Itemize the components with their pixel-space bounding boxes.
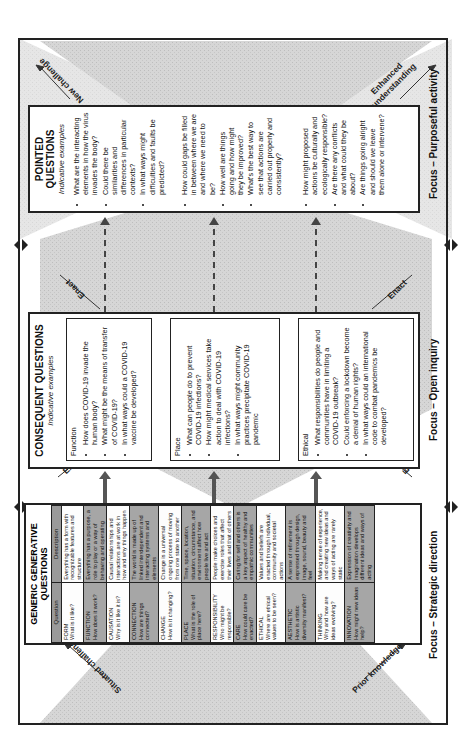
consequent-group-place: Place What can people do to prevent COVI…	[170, 318, 280, 461]
list-item: In what ways could an international code…	[361, 323, 389, 445]
list-item: Could enforcing a lockdown become a deni…	[342, 323, 360, 445]
table-row: INNOVATIONHow might new ideas help?Expre…	[345, 506, 374, 643]
table-row: THINKINGWhy and how are ideas evolving?M…	[315, 506, 344, 643]
generic-questions-panel: GENERIC GENERATIVE QUESTIONS Question De…	[24, 503, 422, 645]
focus-strategic-caption: Focus – Strategic direction	[428, 531, 439, 659]
table-row: CAREHow could care be enacted?Caring for…	[234, 506, 257, 643]
table-row: ETHICALWhere are ethical values to be se…	[257, 506, 286, 643]
table-row: CHANGEHow is it changing?Change is a uni…	[159, 506, 182, 643]
consequent-questions-subtitle: Indicative examples	[46, 314, 55, 467]
pointed-group-1: What are the interacting elements in how…	[72, 112, 166, 206]
table-row: AESTHETICHow is artistic diversity manif…	[286, 506, 315, 643]
consequent-questions-panel: CONSEQUENT QUESTIONS Indicative examples…	[28, 312, 420, 469]
pointed-group-2: How could gaps be filled in between wher…	[180, 112, 283, 206]
focus-open-caption: Focus – Open inquiry	[428, 339, 439, 441]
list-item: What are the interacting elements in how…	[72, 112, 100, 195]
list-item: How well are things going and how might …	[218, 112, 246, 195]
consequent-group-ethical: Ethical What responsibilities do people …	[298, 318, 414, 461]
table-row: FORMWhat is it like?Everything has a for…	[61, 506, 84, 643]
list-item: What might be the means of transfer of C…	[100, 323, 118, 445]
list-item: In what ways could a COVID-19 vaccine be…	[120, 323, 138, 445]
focus-purposeful-caption: Focus – Purposeful activity	[428, 69, 439, 199]
consequent-questions-title: CONSEQUENT QUESTIONS	[34, 314, 45, 467]
table-row: CONNECTIONHow are things connected?The w…	[129, 506, 158, 643]
list-item: What's the best way to see that actions …	[246, 112, 283, 195]
list-item: Are there any conflicts and what could t…	[330, 112, 358, 195]
list-item: In what ways might community practices p…	[233, 323, 261, 445]
list-item: How does COVID-19 invade the human body?	[81, 323, 99, 445]
list-item: What responsibilities do people and comm…	[313, 323, 341, 445]
list-item: How might medical services take action t…	[204, 323, 232, 445]
list-item: What can people do to prevent COVID-19 i…	[185, 323, 203, 445]
table-row: CAUSATIONWhy is it like it is?Causal rel…	[107, 506, 130, 643]
column-header-description: Description	[52, 506, 62, 583]
pointed-questions-title: POINTED QUESTIONS	[34, 112, 56, 206]
table-row: PLACEWhat is the role of place here?Time…	[182, 506, 211, 643]
table-row: RESPONSIBILITYWho might be responsible?P…	[211, 506, 234, 643]
generic-questions-table: Question Description FORMWhat is it like…	[51, 505, 375, 643]
column-header-question: Question	[52, 582, 62, 642]
pointed-questions-panel: POINTED QUESTIONS Indicative examples Wh…	[28, 105, 420, 213]
list-item: Are things going alright and should we l…	[358, 112, 386, 195]
list-item: In what ways might difficulties and faul…	[138, 112, 166, 195]
list-item: How might proposed actions be culturally…	[301, 112, 329, 195]
list-item: How could gaps be filled in between wher…	[180, 112, 217, 195]
pointed-group-3: How might proposed actions be culturally…	[301, 112, 386, 206]
question-framework-diagram: Situated challenge Prior knowledge Expan…	[0, 0, 472, 739]
consequent-group-function: Function How does COVID-19 invade the hu…	[66, 318, 152, 461]
generic-questions-title: GENERIC GENERATIVE QUESTIONS	[26, 505, 51, 643]
table-row: FUNCTIONHow does it work?Everything has …	[84, 506, 107, 643]
pointed-questions-subtitle: Indicative examples	[57, 112, 66, 206]
list-item: Could there be similarities and differen…	[101, 112, 138, 195]
